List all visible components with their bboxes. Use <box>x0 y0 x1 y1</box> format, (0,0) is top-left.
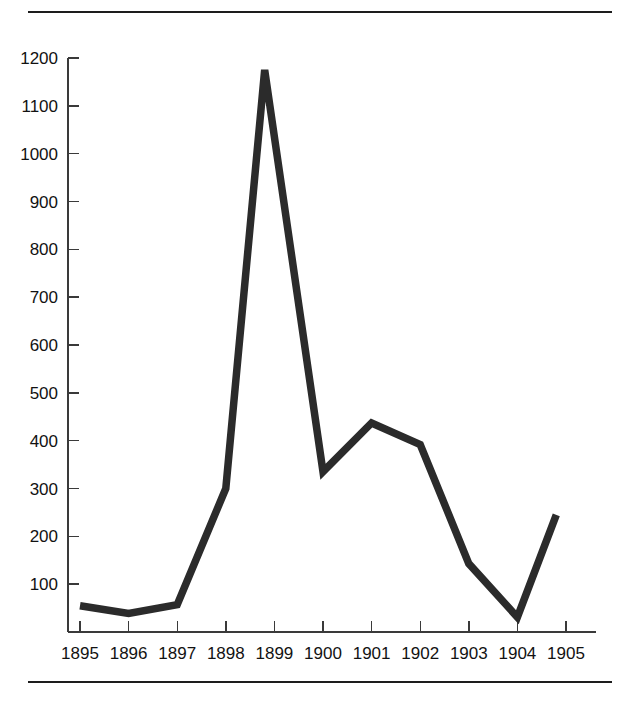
x-tick-label: 1900 <box>304 644 342 663</box>
chart-svg: 100200300400500600700800900100011001200 … <box>0 0 640 703</box>
y-tick-label: 700 <box>30 288 58 307</box>
x-tick-label: 1904 <box>498 644 536 663</box>
y-tick-label: 1200 <box>20 49 58 68</box>
y-tick-label: 500 <box>30 384 58 403</box>
series-line-1 <box>80 70 556 617</box>
x-tick-label: 1899 <box>255 644 293 663</box>
y-tick-label: 300 <box>30 480 58 499</box>
x-axis <box>68 621 596 632</box>
x-tick-label: 1898 <box>207 644 245 663</box>
x-tick-label: 1902 <box>401 644 439 663</box>
x-tick-label: 1897 <box>158 644 196 663</box>
y-tick-label: 1000 <box>20 145 58 164</box>
y-tick-label: 100 <box>30 575 58 594</box>
y-tick-labels: 100200300400500600700800900100011001200 <box>20 49 58 594</box>
y-tick-label: 1100 <box>21 97 58 116</box>
x-tick-labels: 1895189618971898189919001901190219031904… <box>61 644 585 663</box>
y-tick-label: 900 <box>30 193 58 212</box>
x-tick-label: 1901 <box>353 644 391 663</box>
y-tick-label: 600 <box>30 336 58 355</box>
y-axis <box>68 58 79 632</box>
y-tick-label: 800 <box>30 240 58 259</box>
x-tick-label: 1895 <box>61 644 99 663</box>
x-tick-label: 1903 <box>450 644 488 663</box>
y-tick-label: 200 <box>30 527 58 546</box>
x-tick-label: 1905 <box>547 644 585 663</box>
page-root: 100200300400500600700800900100011001200 … <box>0 0 640 703</box>
y-tick-label: 400 <box>30 432 58 451</box>
x-tick-label: 1896 <box>110 644 148 663</box>
line-chart-figure: 100200300400500600700800900100011001200 … <box>0 0 640 703</box>
